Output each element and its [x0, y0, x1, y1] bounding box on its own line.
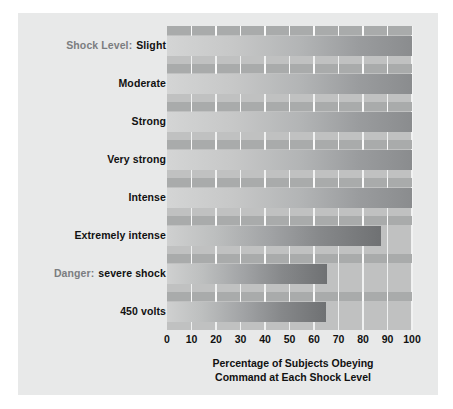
category-label-intense: Intense [18, 191, 166, 203]
tick-band [167, 64, 412, 73]
tick-mark-60 [313, 140, 315, 149]
category-label-prefix: Danger: [54, 267, 94, 279]
tick-mark-70 [338, 292, 340, 301]
tick-mark-40 [264, 254, 266, 263]
tick-mark-20 [215, 102, 217, 111]
category-label-text: Intense [129, 191, 166, 203]
tick-mark-10 [191, 140, 193, 149]
x-tick-label-100: 100 [403, 333, 421, 345]
tick-mark-60 [313, 254, 315, 263]
category-label-extremely-intense: Extremely intense [18, 229, 166, 241]
tick-mark-60 [313, 26, 315, 35]
tick-band [167, 254, 412, 263]
tick-mark-70 [338, 140, 340, 149]
tick-mark-10 [191, 178, 193, 187]
bar-very-strong [167, 150, 412, 170]
tick-mark-90 [387, 26, 389, 35]
chart-figure: Shock Level:SlightModerateStrongVery str… [0, 0, 453, 409]
bar-row-moderate [167, 64, 412, 102]
tick-mark-80 [362, 140, 364, 149]
tick-mark-50 [289, 26, 291, 35]
bar-intense [167, 188, 412, 208]
bar-row-very-strong [167, 140, 412, 178]
bar-danger-severe-shock [167, 264, 327, 284]
tick-mark-80 [362, 254, 364, 263]
category-label-450-volts: 450 volts [18, 305, 166, 317]
bar-moderate [167, 74, 412, 94]
tick-mark-90 [387, 254, 389, 263]
tick-mark-80 [362, 102, 364, 111]
x-axis-ticks: 0102030405060708090100 [167, 333, 412, 349]
plot-area [167, 26, 412, 330]
tick-mark-60 [313, 216, 315, 225]
bar-row-strong [167, 102, 412, 140]
category-label-text: Moderate [119, 77, 166, 89]
tick-mark-10 [191, 102, 193, 111]
tick-mark-20 [215, 216, 217, 225]
bar-450-volts [167, 302, 326, 322]
bar-slight [167, 36, 412, 56]
tick-mark-70 [338, 102, 340, 111]
x-tick-label-50: 50 [284, 333, 296, 345]
category-label-text: Very strong [107, 153, 166, 165]
tick-mark-20 [215, 254, 217, 263]
x-tick-label-90: 90 [382, 333, 394, 345]
tick-mark-20 [215, 64, 217, 73]
tick-band [167, 140, 412, 149]
category-label-strong: Strong [18, 115, 166, 127]
tick-mark-30 [240, 102, 242, 111]
category-label-text: Extremely intense [74, 229, 166, 241]
tick-mark-20 [215, 26, 217, 35]
tick-mark-90 [387, 102, 389, 111]
x-tick-label-10: 10 [186, 333, 198, 345]
tick-mark-50 [289, 140, 291, 149]
tick-mark-10 [191, 26, 193, 35]
tick-mark-30 [240, 254, 242, 263]
tick-mark-60 [313, 64, 315, 73]
tick-band [167, 26, 412, 35]
tick-mark-30 [240, 64, 242, 73]
tick-mark-80 [362, 26, 364, 35]
tick-mark-70 [338, 216, 340, 225]
tick-band [167, 216, 412, 225]
category-label-prefix: Shock Level: [66, 39, 132, 51]
tick-mark-30 [240, 178, 242, 187]
tick-mark-70 [338, 254, 340, 263]
tick-mark-10 [191, 254, 193, 263]
tick-mark-90 [387, 292, 389, 301]
tick-mark-20 [215, 140, 217, 149]
bar-row-slight [167, 26, 412, 64]
tick-mark-80 [362, 216, 364, 225]
tick-mark-40 [264, 216, 266, 225]
tick-mark-10 [191, 292, 193, 301]
tick-mark-40 [264, 64, 266, 73]
tick-mark-90 [387, 64, 389, 73]
tick-mark-70 [338, 64, 340, 73]
tick-mark-60 [313, 102, 315, 111]
tick-mark-90 [387, 216, 389, 225]
x-tick-label-40: 40 [259, 333, 271, 345]
tick-mark-50 [289, 102, 291, 111]
tick-mark-70 [338, 26, 340, 35]
category-label-text: Slight [136, 39, 166, 51]
x-tick-label-30: 30 [235, 333, 247, 345]
x-axis-title-line-2: Command at Each Shock Level [167, 370, 419, 384]
x-axis-title-line-1: Percentage of Subjects Obeying [167, 356, 419, 370]
category-label-slight: Shock Level:Slight [18, 39, 166, 51]
x-axis-title: Percentage of Subjects ObeyingCommand at… [167, 356, 419, 384]
tick-mark-50 [289, 216, 291, 225]
tick-mark-40 [264, 140, 266, 149]
tick-mark-30 [240, 140, 242, 149]
category-label-moderate: Moderate [18, 77, 166, 89]
tick-band [167, 292, 412, 301]
bar-row-extremely-intense [167, 216, 412, 254]
tick-mark-50 [289, 178, 291, 187]
tick-mark-60 [313, 178, 315, 187]
bar-row-danger-severe-shock [167, 254, 412, 292]
tick-mark-30 [240, 292, 242, 301]
tick-mark-50 [289, 292, 291, 301]
tick-mark-80 [362, 178, 364, 187]
bar-row-intense [167, 178, 412, 216]
category-label-text: 450 volts [120, 305, 166, 317]
category-label-text: severe shock [98, 267, 166, 279]
